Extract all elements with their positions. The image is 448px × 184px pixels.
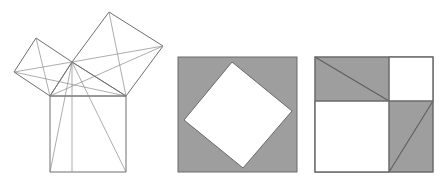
white-square-small-b-squared	[389, 57, 433, 101]
square-on-hypotenuse	[50, 96, 126, 172]
white-square-large-a-squared	[315, 101, 389, 172]
panel-middle	[178, 57, 297, 172]
figure-container: Pythagorean theorem proof diagram	[0, 0, 448, 184]
pythagorean-proof-figure: Pythagorean theorem proof diagram	[0, 0, 448, 184]
panel-right	[315, 57, 433, 172]
